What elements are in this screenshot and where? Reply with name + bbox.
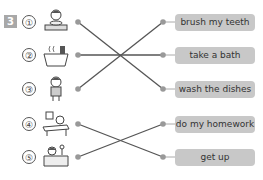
label-wash-the-dishes[interactable]: wash the dishes (175, 81, 255, 98)
child-eating-icon (42, 8, 70, 34)
left-dot-5[interactable] (75, 154, 81, 160)
right-dot-3[interactable] (160, 86, 166, 92)
child-in-bed-icon (42, 144, 70, 170)
right-dot-1[interactable] (160, 19, 166, 25)
item-marker-1: ① (22, 15, 36, 29)
child-at-desk-icon (42, 111, 70, 137)
bathtub-icon (42, 42, 70, 68)
label-brush-my-teeth[interactable]: brush my teeth (175, 14, 255, 31)
right-dot-2[interactable] (160, 52, 166, 58)
item-marker-2: ② (22, 48, 36, 62)
item-marker-3: ③ (22, 82, 36, 96)
left-dot-3[interactable] (75, 86, 81, 92)
right-dot-5[interactable] (160, 154, 166, 160)
item-marker-4: ④ (22, 117, 36, 131)
item-marker-5: ⑤ (22, 150, 36, 164)
left-dot-1[interactable] (75, 19, 81, 25)
label-take-a-bath[interactable]: take a bath (175, 47, 255, 64)
child-standing-icon (42, 76, 70, 102)
label-do-my-homework[interactable]: do my homework (175, 116, 255, 133)
label-get-up[interactable]: get up (175, 149, 255, 166)
right-dot-4[interactable] (160, 121, 166, 127)
left-dot-4[interactable] (75, 121, 81, 127)
left-dot-2[interactable] (75, 52, 81, 58)
